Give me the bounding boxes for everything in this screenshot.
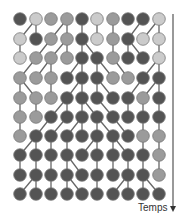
individual-node [137, 169, 150, 182]
individual-node [45, 130, 58, 143]
individual-node [91, 52, 104, 65]
individual-node [45, 149, 58, 162]
edges [20, 19, 159, 194]
individual-node [137, 13, 150, 26]
individual-node [122, 169, 135, 182]
individual-node [45, 72, 58, 85]
individual-node [76, 72, 89, 85]
individual-node [14, 72, 27, 85]
individual-node [61, 52, 74, 65]
individual-node [137, 52, 150, 65]
individual-node [153, 72, 166, 85]
individual-node [122, 149, 135, 162]
individual-node [91, 149, 104, 162]
individual-node [14, 169, 27, 182]
individual-node [107, 52, 120, 65]
individual-node [61, 111, 74, 124]
individual-node [61, 72, 74, 85]
individual-node [14, 111, 27, 124]
individual-node [14, 149, 27, 162]
individual-node [153, 33, 166, 46]
individual-node [14, 13, 27, 26]
individual-node [137, 188, 150, 201]
individual-node [137, 111, 150, 124]
individual-node [76, 130, 89, 143]
individual-node [122, 13, 135, 26]
individual-node [91, 188, 104, 201]
individual-node [153, 13, 166, 26]
individual-node [45, 13, 58, 26]
individual-node [153, 92, 166, 105]
individual-node [107, 92, 120, 105]
individual-node [137, 33, 150, 46]
individual-node [30, 13, 43, 26]
individual-node [76, 52, 89, 65]
individual-node [107, 72, 120, 85]
individual-node [122, 111, 135, 124]
individual-node [122, 130, 135, 143]
individual-node [137, 92, 150, 105]
individual-node [91, 13, 104, 26]
individual-node [107, 188, 120, 201]
individual-node [153, 169, 166, 182]
individual-node [30, 92, 43, 105]
individual-node [30, 52, 43, 65]
individual-node [61, 13, 74, 26]
individual-node [91, 33, 104, 46]
individual-node [14, 52, 27, 65]
individual-node [153, 111, 166, 124]
individual-node [122, 92, 135, 105]
individual-node [107, 33, 120, 46]
individual-node [30, 149, 43, 162]
individual-node [30, 33, 43, 46]
individual-node [107, 111, 120, 124]
individual-node [76, 149, 89, 162]
individual-node [76, 33, 89, 46]
individual-node [45, 33, 58, 46]
individual-node [76, 92, 89, 105]
individual-node [76, 188, 89, 201]
individual-node [61, 169, 74, 182]
individual-node [30, 169, 43, 182]
individual-node [61, 130, 74, 143]
individual-node [14, 33, 27, 46]
individual-node [122, 52, 135, 65]
individual-node [137, 149, 150, 162]
lineage-diagram [0, 0, 179, 221]
individual-node [107, 130, 120, 143]
individual-node [122, 33, 135, 46]
individual-node [30, 188, 43, 201]
individual-node [45, 188, 58, 201]
individual-node [30, 111, 43, 124]
individual-node [153, 149, 166, 162]
individual-node [137, 72, 150, 85]
individual-node [91, 111, 104, 124]
individual-node [14, 188, 27, 201]
individual-node [91, 72, 104, 85]
individual-node [45, 92, 58, 105]
individual-node [45, 111, 58, 124]
individual-node [61, 92, 74, 105]
individual-node [76, 169, 89, 182]
individual-node [61, 188, 74, 201]
individual-node [137, 130, 150, 143]
individual-node [107, 13, 120, 26]
individual-node [153, 188, 166, 201]
individual-node [122, 72, 135, 85]
individual-node [30, 130, 43, 143]
individual-node [76, 111, 89, 124]
individual-node [30, 72, 43, 85]
individual-node [107, 149, 120, 162]
arrow-down-icon [170, 206, 176, 212]
individual-node [61, 149, 74, 162]
individual-node [153, 130, 166, 143]
individual-node [122, 188, 135, 201]
individual-node [107, 169, 120, 182]
individual-node [61, 33, 74, 46]
individual-node [14, 92, 27, 105]
individual-node [76, 13, 89, 26]
individual-node [14, 130, 27, 143]
time-axis [170, 14, 176, 212]
individual-node [45, 52, 58, 65]
individual-node [91, 130, 104, 143]
